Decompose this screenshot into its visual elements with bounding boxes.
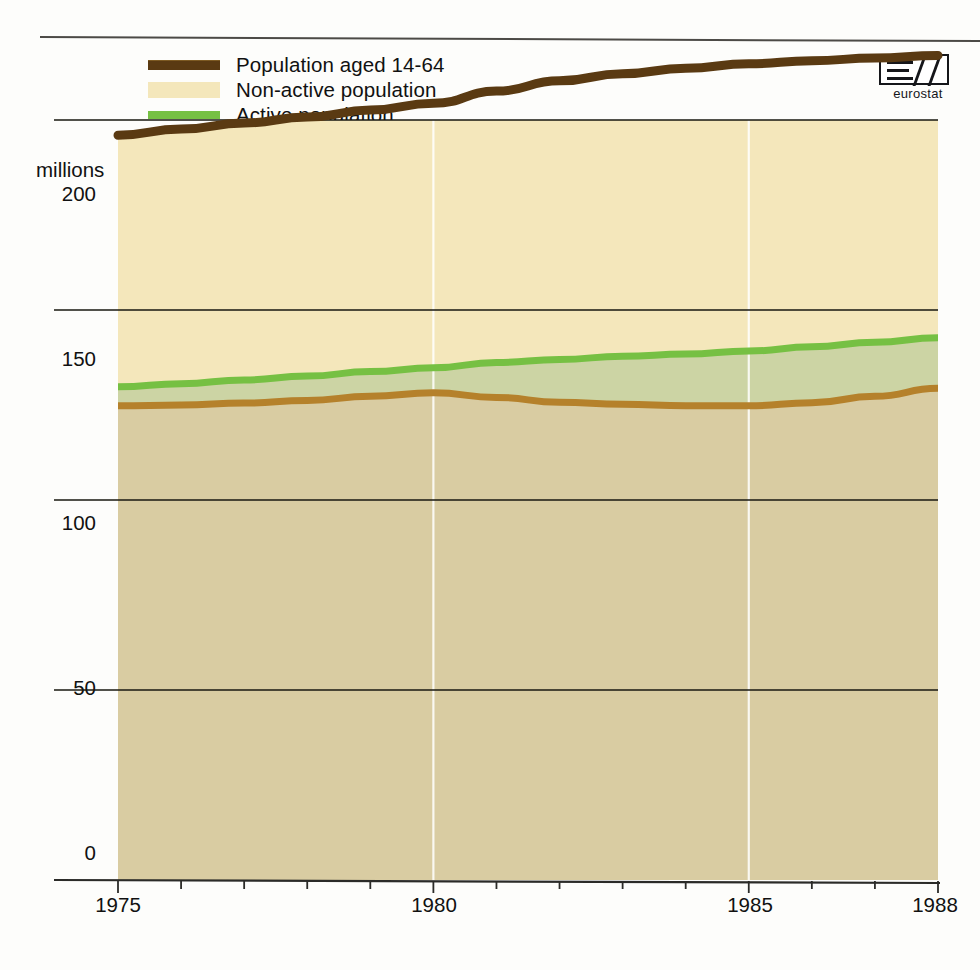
chart-axis-layer	[54, 880, 940, 893]
area-chart-plot	[0, 0, 980, 970]
chart-series-layer	[118, 55, 938, 880]
chart-canvas: Population aged 14-64 Non-active populat…	[0, 0, 980, 970]
